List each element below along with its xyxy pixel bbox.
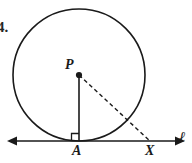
line-l-left-arrowhead bbox=[7, 137, 17, 146]
geometry-figure: 4. P A X ℓ bbox=[0, 0, 192, 163]
problem-number-label: 4. bbox=[0, 20, 8, 35]
label-point-x: X bbox=[145, 144, 154, 158]
label-center-p: P bbox=[65, 58, 74, 72]
right-angle-mark-at-a bbox=[72, 134, 80, 142]
label-line-l: ℓ bbox=[179, 130, 185, 145]
label-point-a: A bbox=[72, 144, 81, 158]
center-point-dot-p bbox=[76, 72, 82, 78]
geometry-diagram-canvas bbox=[0, 0, 192, 163]
